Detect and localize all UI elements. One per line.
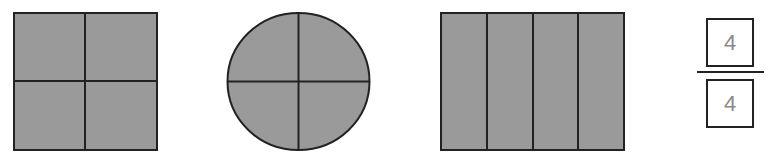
fraction-shapes (0, 0, 776, 164)
square-quarters (14, 13, 157, 150)
rectangle-quarters (441, 13, 624, 150)
denominator-value: 4 (724, 91, 736, 117)
fraction-bar (697, 71, 764, 73)
denominator-box: 4 (706, 79, 754, 128)
numerator-box: 4 (706, 18, 754, 67)
circle-quarters (228, 13, 370, 150)
numerator-value: 4 (724, 30, 736, 56)
